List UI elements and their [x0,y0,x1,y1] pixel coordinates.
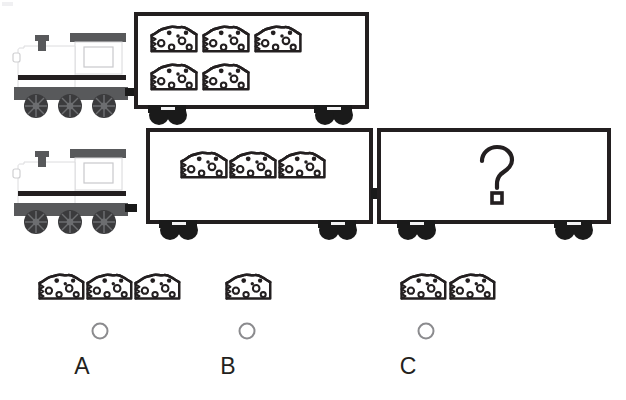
cheese-wedge [280,153,325,178]
cheese-wedge [231,153,276,178]
answer-option-b-cheese[interactable] [227,275,271,299]
bogie-left [148,105,187,125]
cheese-wedge [40,275,84,299]
bogie-right [314,105,353,125]
bogie-left [397,220,436,240]
radio-button-icon-c[interactable] [419,324,434,339]
wagon-top-1 [136,14,367,125]
cheese-wedge [204,65,249,90]
bogie-right [318,220,357,240]
wagon-bottom-2-unknown [379,130,609,240]
answer-option-b-label: B [198,355,258,378]
bogie-left [159,220,198,240]
answer-option-a-cheese[interactable] [40,275,180,299]
answer-option-c-label: C [378,355,438,378]
top-train-row [13,14,367,125]
exercise-canvas [0,0,626,400]
radio-button-icon-b[interactable] [240,324,255,339]
cheese-wedge [402,275,446,299]
coupling-bottom-1 [125,204,137,212]
cheese-wedge [88,275,132,299]
cheese-wedge [152,27,197,52]
corner-artifact [2,2,13,6]
cheese-wedge [136,275,180,299]
bottom-train-row [13,130,609,240]
cheese-wedge [204,27,249,52]
locomotive-bottom [13,149,128,234]
locomotive-top [13,33,128,118]
answer-options-area [40,275,495,339]
answer-option-c-cheese[interactable] [402,275,495,299]
answer-option-a-label: A [52,355,112,378]
wagon-bottom-1 [148,130,371,240]
cheese-wedge [256,27,301,52]
cheese-wedge [182,153,227,178]
cheese-wedge [227,275,271,299]
radio-button-icon-a[interactable] [93,324,108,339]
cheese-wedge [451,275,495,299]
bogie-right [554,220,593,240]
cheese-wedge [152,65,197,90]
